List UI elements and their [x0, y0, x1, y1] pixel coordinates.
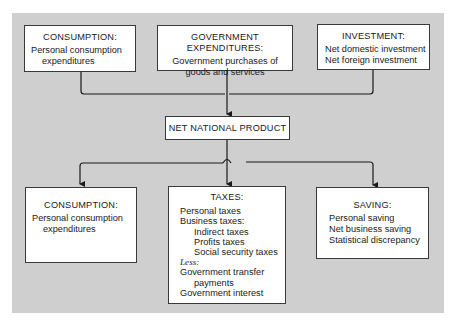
box-title: CONSUMPTION:	[26, 200, 136, 211]
box-line: Net business saving	[329, 224, 428, 235]
box-title: NET NATIONAL PRODUCT	[166, 117, 289, 139]
personal-taxes: Personal taxes	[180, 206, 285, 216]
taxes-box: TAXES: Personal taxes Business taxes: In…	[168, 186, 286, 304]
box-line: Net foreign investment	[325, 55, 429, 66]
social-security-taxes: Social security taxes	[180, 247, 285, 257]
box-line: goods and services	[158, 67, 292, 78]
box-line: Statistical discrepancy	[329, 235, 428, 246]
consumption-use-box: CONSUMPTION: Personal consumption expend…	[25, 187, 137, 263]
box-title: INVESTMENT:	[318, 31, 429, 42]
profits-taxes: Profits taxes	[180, 237, 285, 247]
box-line: Net domestic investment	[325, 44, 429, 55]
box-title: GOVERNMENT EXPENDITURES:	[158, 32, 292, 54]
consumption-source-box: CONSUMPTION: Personal consumption expend…	[24, 25, 136, 72]
box-title: CONSUMPTION:	[25, 32, 135, 43]
investment-box: INVESTMENT: Net domestic investment Net …	[317, 24, 430, 70]
government-interest: Government interest	[180, 288, 285, 298]
box-title: SAVING:	[317, 200, 428, 211]
indirect-taxes: Indirect taxes	[180, 227, 285, 237]
box-line: expenditures	[32, 224, 136, 235]
box-title: TAXES:	[169, 192, 285, 202]
government-transfer: Government transfer	[180, 267, 285, 277]
net-national-product-box: NET NATIONAL PRODUCT	[165, 116, 290, 140]
payments: payments	[180, 278, 285, 288]
less-label: Less:	[180, 257, 285, 267]
box-line: Personal saving	[329, 213, 428, 224]
box-line: Personal consumption	[31, 45, 135, 56]
box-line: Government purchases of	[158, 56, 292, 67]
box-line: Personal consumption	[32, 213, 136, 224]
government-expenditures-box: GOVERNMENT EXPENDITURES: Government purc…	[157, 25, 293, 71]
saving-box: SAVING: Personal saving Net business sav…	[316, 187, 429, 259]
business-taxes: Business taxes:	[180, 216, 285, 226]
box-line: expenditures	[31, 56, 135, 67]
